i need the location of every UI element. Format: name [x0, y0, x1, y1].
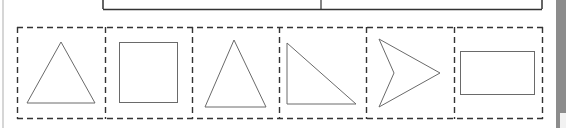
shape-rectangle	[461, 52, 535, 95]
shape-square	[120, 43, 178, 103]
shape-right-triangle	[287, 43, 356, 104]
page-right-strip	[556, 0, 566, 128]
shape-row	[17, 27, 543, 119]
worksheet-drawing	[0, 0, 566, 128]
worksheet-page	[0, 0, 566, 128]
page-right-strip-inset	[560, 113, 566, 128]
shape-arrowhead	[379, 39, 440, 107]
shape-equilateral-triangle	[27, 42, 95, 103]
top-table	[103, 0, 542, 10]
top-table-cell-2	[322, 0, 541, 9]
shape-isosceles-triangle	[205, 40, 266, 107]
top-table-cell-1	[104, 0, 320, 9]
